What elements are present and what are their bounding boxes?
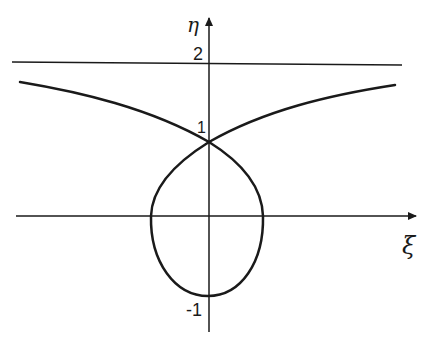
asymptote-line (12, 62, 402, 65)
diagram-canvas: η 2 1 -1 ξ (0, 0, 431, 344)
tick-label-1: 1 (197, 119, 206, 136)
eta-axis-label: η (187, 13, 199, 37)
left-upper-branch (20, 82, 209, 142)
right-upper-branch (209, 85, 395, 142)
tick-label-neg1: -1 (186, 300, 202, 320)
tick-label-2: 2 (193, 44, 203, 64)
xi-axis-label: ξ (402, 232, 417, 260)
teardrop-loop (151, 142, 263, 296)
